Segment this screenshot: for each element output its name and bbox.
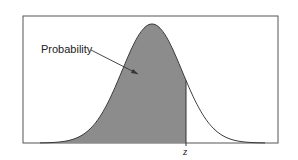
normal-curve-diagram: Probability z [0, 0, 298, 160]
probability-label: Probability [41, 43, 93, 55]
z-label: z [182, 145, 188, 157]
